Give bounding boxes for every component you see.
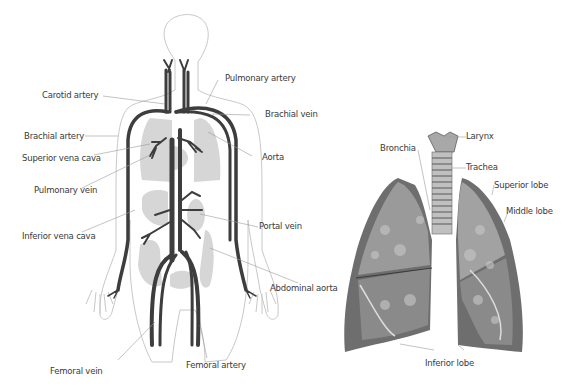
label-pulmonary-vein: Pulmonary vein bbox=[34, 185, 97, 195]
label-femoral-artery: Femoral artery bbox=[186, 360, 246, 370]
label-abdominal-aorta: Abdominal aorta bbox=[270, 283, 338, 293]
label-inferior-vena-cava: Inferior vena cava bbox=[22, 231, 95, 241]
label-aorta: Aorta bbox=[262, 152, 284, 162]
larynx-shape bbox=[428, 132, 458, 152]
intestines bbox=[138, 240, 162, 286]
label-pulmonary-artery: Pulmonary artery bbox=[225, 73, 296, 83]
label-middle-lobe: Middle lobe bbox=[506, 206, 553, 216]
label-larynx: Larynx bbox=[466, 131, 494, 141]
label-inferior-lobe: Inferior lobe bbox=[425, 358, 474, 368]
label-portal-vein: Portal vein bbox=[259, 221, 302, 231]
label-brachial-vein: Brachial vein bbox=[265, 109, 318, 119]
label-superior-lobe: Superior lobe bbox=[494, 180, 548, 190]
label-carotid-artery: Carotid artery bbox=[42, 90, 98, 100]
anatomy-diagram bbox=[0, 0, 565, 392]
label-brachial-artery: Brachial artery bbox=[24, 131, 84, 141]
label-femoral-vein: Femoral vein bbox=[50, 366, 103, 376]
vessels bbox=[108, 60, 256, 345]
label-superior-vena-cava: Superior vena cava bbox=[22, 153, 101, 163]
label-trachea: Trachea bbox=[466, 162, 498, 172]
intestines-right bbox=[200, 230, 214, 288]
liver bbox=[142, 190, 168, 226]
label-bronchia: Bronchia bbox=[380, 143, 416, 153]
